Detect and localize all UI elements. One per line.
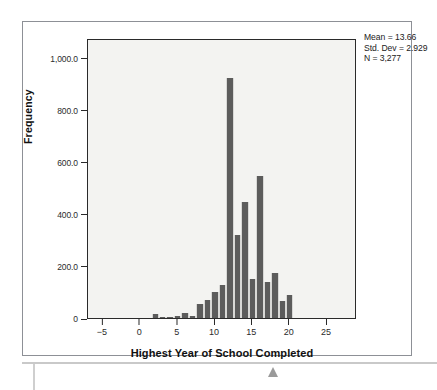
x-axis-title: Highest Year of School Completed [87, 347, 357, 359]
stat-std-dev: Std. Dev = 2.929 [364, 43, 427, 54]
x-axis-tick-mark [251, 319, 252, 325]
x-axis-tick: 10 [209, 319, 219, 337]
histogram-bar [152, 314, 159, 318]
histogram-bar [159, 317, 166, 318]
histogram-bar [241, 202, 248, 318]
histogram-bar [181, 313, 188, 318]
y-axis-tick-label: 600.0 [57, 158, 78, 168]
histogram-bar [166, 317, 173, 318]
y-axis-tick-label: 400.0 [57, 210, 78, 220]
y-axis: Frequency 0200.0400.0600.0800.01,000.0 [23, 39, 87, 320]
histogram-bars [88, 40, 355, 318]
histogram-bar [174, 316, 181, 318]
histogram-bar [279, 301, 286, 318]
x-axis-tick: 20 [284, 319, 294, 337]
histogram-bar [249, 279, 256, 318]
histogram-bar [211, 292, 218, 318]
x-axis-tick-mark [101, 319, 102, 325]
x-axis-tick-mark [288, 319, 289, 325]
y-axis-tick-label: 1,000.0 [50, 54, 78, 64]
plot-area [87, 39, 356, 319]
histogram-bar [204, 300, 211, 318]
histogram-bar [219, 285, 226, 318]
y-axis-tick-label: 0 [73, 314, 78, 324]
histogram-bar [234, 235, 241, 318]
x-axis-tick: 0 [137, 319, 142, 337]
x-axis-tick: 25 [321, 319, 331, 337]
x-axis-tick-label: 15 [246, 327, 256, 337]
stat-n: N = 3,277 [364, 53, 427, 64]
x-axis-tick: 5 [174, 319, 179, 337]
x-axis-tick-mark [176, 319, 177, 325]
x-axis-tick-mark [326, 319, 327, 325]
page-horizontal-rule [22, 362, 437, 364]
histogram-bar [196, 304, 203, 318]
y-axis-tick-label: 800.0 [57, 106, 78, 116]
stat-mean: Mean = 13.66 [364, 32, 427, 43]
histogram-bar [271, 273, 278, 318]
x-axis-tick: 15 [246, 319, 256, 337]
x-axis-tick-label: 20 [284, 327, 294, 337]
page-vertical-rule [33, 364, 35, 390]
x-axis-tick-label: 0 [137, 327, 142, 337]
histogram-bar [256, 176, 263, 318]
histogram-bar [286, 295, 293, 318]
x-axis-tick-label: 5 [174, 327, 179, 337]
histogram-bar [226, 78, 233, 318]
histogram-bar [189, 316, 196, 318]
x-axis-tick: −5 [97, 319, 107, 337]
x-axis-tick-mark [139, 319, 140, 325]
statistics-annotation: Mean = 13.66 Std. Dev = 2.929 N = 3,277 [364, 32, 427, 64]
x-axis-tick-label: 25 [321, 327, 331, 337]
x-axis-tick-label: −5 [97, 327, 107, 337]
x-axis-tick-mark [214, 319, 215, 325]
histogram-figure-frame: Frequency 0200.0400.0600.0800.01,000.0 −… [22, 21, 412, 356]
caret-up-icon [268, 367, 278, 377]
histogram-bar [264, 282, 271, 318]
y-axis-tick-label: 200.0 [57, 262, 78, 272]
y-axis-title: Frequency [22, 89, 34, 144]
x-axis-tick-label: 10 [209, 327, 219, 337]
